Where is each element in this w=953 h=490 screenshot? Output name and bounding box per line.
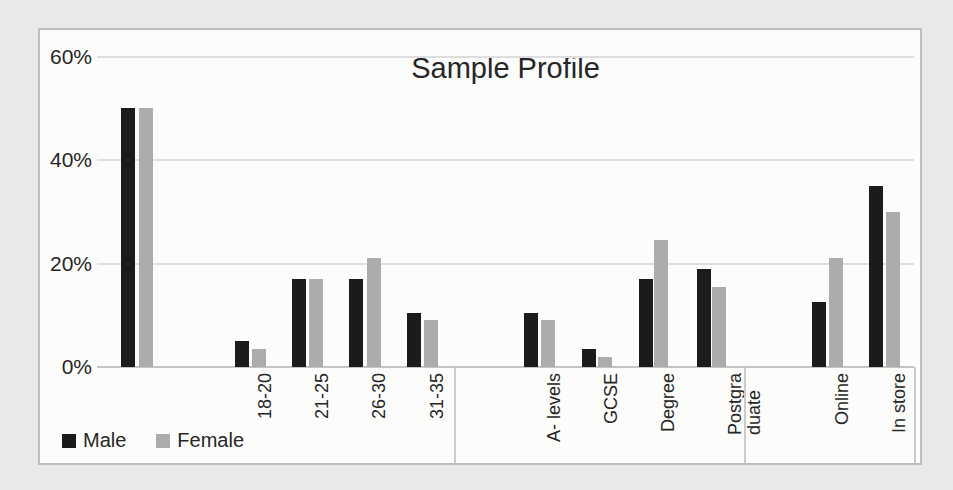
bar-female-online (829, 258, 843, 367)
y-axis-tick-label: 60% (40, 46, 92, 67)
scanned-page: Sample Profile MaleFemale 0%20%40%60%18-… (0, 0, 953, 490)
legend: MaleFemale (62, 429, 244, 452)
bar-male-26-30 (349, 279, 363, 367)
y-axis-tick-label: 0% (40, 356, 92, 377)
gridline-20 (97, 263, 914, 265)
category-group-divider-2 (744, 367, 746, 463)
y-axis-tick-label: 20% (40, 253, 92, 274)
category-label-26-30: 26-30 (371, 373, 390, 419)
category-label-degree: Degree (659, 373, 678, 432)
category-label-31-35: 31-35 (428, 373, 447, 419)
bar-male-a--levels (524, 313, 538, 367)
x-axis-line (97, 366, 914, 368)
bar-female-postgra-duate (712, 287, 726, 367)
bar-male-21-25 (292, 279, 306, 367)
category-group-divider-3 (914, 367, 916, 463)
bar-female-a--levels (541, 320, 555, 367)
bar-male-total (121, 108, 135, 367)
bar-male-in-store (869, 186, 883, 367)
legend-swatch-male (62, 434, 76, 448)
category-label-a--levels: A- levels (545, 373, 564, 442)
bar-male-gcse (582, 349, 596, 367)
legend-swatch-female (156, 434, 170, 448)
gridline-60 (97, 56, 914, 58)
bar-female-degree (654, 240, 668, 367)
bar-female-18-20 (252, 349, 266, 367)
y-axis-tick-label: 40% (40, 149, 92, 170)
bar-female-21-25 (309, 279, 323, 367)
bar-female-26-30 (367, 258, 381, 367)
bar-male-degree (639, 279, 653, 367)
category-label-gcse: GCSE (603, 373, 622, 424)
legend-label-male: Male (83, 429, 126, 452)
chart: Sample Profile MaleFemale 0%20%40%60%18-… (38, 28, 922, 465)
category-label-18-20: 18-20 (256, 373, 275, 419)
bar-male-18-20 (235, 341, 249, 367)
bar-female-in-store (886, 212, 900, 367)
bar-male-31-35 (407, 313, 421, 367)
legend-label-female: Female (177, 429, 244, 452)
bar-female-31-35 (424, 320, 438, 367)
category-group-divider-1 (454, 367, 456, 463)
gridline-40 (97, 159, 914, 161)
bar-male-postgra-duate (697, 269, 711, 367)
category-label-21-25: 21-25 (313, 373, 332, 419)
bar-female-total (139, 108, 153, 367)
category-label-in-store: In store (890, 373, 909, 433)
legend-item-male: Male (62, 429, 126, 452)
bar-female-gcse (598, 357, 612, 367)
legend-item-female: Female (156, 429, 244, 452)
category-label-online: Online (833, 373, 852, 425)
bar-male-online (812, 302, 826, 367)
